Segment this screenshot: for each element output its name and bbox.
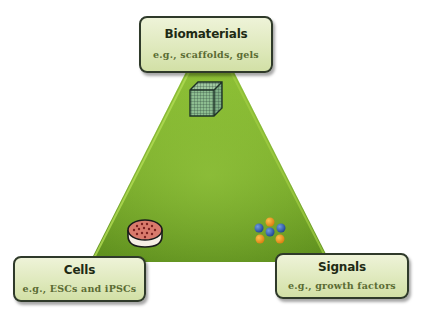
petri-dish-icon xyxy=(125,216,165,250)
cells-title: Cells xyxy=(15,263,144,277)
biomaterials-title: Biomaterials xyxy=(141,27,271,41)
tissue-engineering-triad-diagram: Biomaterials e.g., scaffolds, gels Cells… xyxy=(0,0,422,316)
cells-node: Cells e.g., ESCs and iPSCs xyxy=(13,256,146,302)
signals-title: Signals xyxy=(277,260,407,274)
signal-molecules-icon xyxy=(252,217,288,245)
signals-subtitle: e.g., growth factors xyxy=(277,280,407,291)
scaffold-cube-icon xyxy=(188,80,224,118)
signals-node: Signals e.g., growth factors xyxy=(275,253,409,299)
biomaterials-node: Biomaterials e.g., scaffolds, gels xyxy=(139,16,273,73)
cells-subtitle: e.g., ESCs and iPSCs xyxy=(15,283,144,294)
biomaterials-subtitle: e.g., scaffolds, gels xyxy=(141,49,271,60)
